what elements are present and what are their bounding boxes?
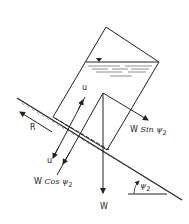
w-sin-label: W Sin ψ2 bbox=[130, 126, 167, 136]
angle-label: ψ2 bbox=[140, 182, 151, 192]
w-cos-arrow bbox=[63, 152, 70, 164]
w-cos-label: W Cos ψ2 bbox=[34, 178, 73, 188]
u-top-label: u bbox=[82, 84, 87, 92]
water-ripples bbox=[88, 66, 152, 76]
water-level-marker-icon bbox=[96, 58, 102, 62]
diagram-drawing bbox=[0, 0, 189, 224]
u-bottom-label: u bbox=[47, 157, 52, 165]
angle-arc bbox=[134, 181, 139, 194]
resistance-arrow bbox=[20, 112, 52, 132]
base-dashed-line bbox=[55, 118, 109, 150]
diagram: u u R W Sin ψ2 W Cos ψ2 W ψ2 bbox=[0, 0, 189, 224]
u-up-arrow bbox=[78, 100, 83, 110]
r-label: R bbox=[30, 124, 36, 132]
u-down-arrow bbox=[53, 148, 58, 158]
w-sin-arrow bbox=[103, 93, 148, 120]
w-label: W bbox=[100, 203, 108, 211]
